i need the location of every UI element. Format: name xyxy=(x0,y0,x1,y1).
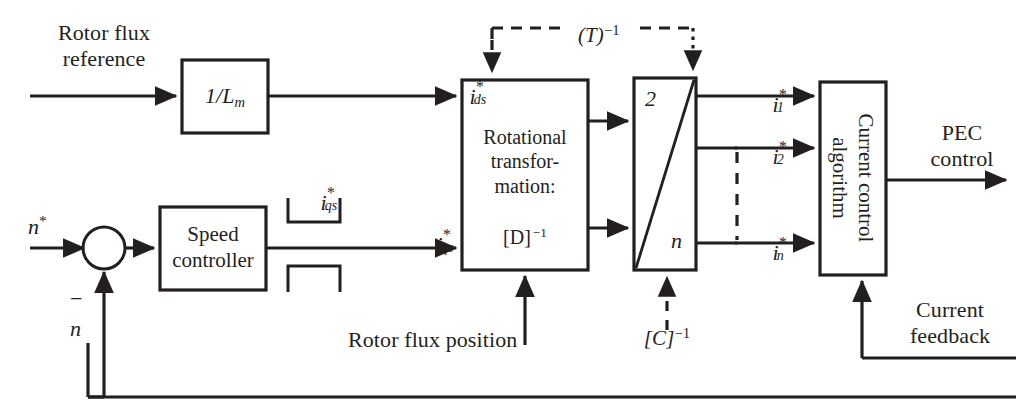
signal-i2-glyph: i*22 xyxy=(772,144,789,170)
t-inverse-exponent: −1 xyxy=(604,22,620,38)
bracket-iqs-lower xyxy=(288,266,340,292)
label-rotor-flux-position: Rotor flux position xyxy=(348,327,517,353)
signal-in-glyph: i*nn xyxy=(772,240,789,266)
label-c-inverse: [C]−1 xyxy=(644,325,690,351)
rotational-matrix-base: [D] xyxy=(503,226,531,248)
current-control-line2: algorithm xyxy=(828,137,852,219)
signal-label-iqs: i*qsqs xyxy=(414,206,462,284)
signal-i2-sub: 2 xyxy=(777,151,784,168)
block-label-rotational-matrix: [D]−1 xyxy=(503,225,547,249)
speed-reference-star: * xyxy=(39,212,47,229)
block-label-inverse-lm: 1/Lm xyxy=(205,83,245,112)
signal-in-sub: n xyxy=(777,247,784,264)
label-current-feedback: Current feedback xyxy=(910,297,990,349)
current-control-line1: Current control xyxy=(854,114,878,243)
speed-reference-base: n xyxy=(28,214,39,239)
t-inverse-base: (T) xyxy=(578,23,604,47)
signal-ids-glyph: i*dsds xyxy=(469,84,495,110)
signal-label-i2: i*22 xyxy=(750,118,790,196)
signal-label-ids: i*dsds xyxy=(447,58,495,136)
inverse-lm-main: 1/L xyxy=(205,83,234,108)
label-summing-minus: − xyxy=(70,286,83,312)
converter-label-2: 2 xyxy=(645,86,656,112)
signal-i1-sub: 1 xyxy=(777,99,784,116)
converter-label-n: n xyxy=(671,228,682,254)
block-label-speed-controller: Speed controller xyxy=(172,222,254,273)
summing-junction xyxy=(83,227,125,269)
inverse-lm-subscript: m xyxy=(234,94,244,110)
signal-ids-sub: ds xyxy=(474,91,487,108)
signal-iqs-annot-sub: qs xyxy=(325,197,338,214)
c-inverse-base: [C] xyxy=(644,326,675,350)
block-label-rotational-transformation: Rotational transfor- mation: xyxy=(483,125,566,198)
rotational-matrix-exponent: −1 xyxy=(533,225,547,240)
c-inverse-exponent: −1 xyxy=(674,325,690,341)
label-speed-feedback: n xyxy=(70,316,81,342)
signal-label-in: i*nn xyxy=(750,214,790,292)
signal-iqs-sub: qs xyxy=(441,239,454,256)
signal-i1-glyph: i*11 xyxy=(772,92,789,118)
block-diagram-canvas: Rotor flux reference 1/Lm Speed controll… xyxy=(0,0,1022,420)
label-pec-control: PEC control xyxy=(930,120,993,172)
label-speed-reference: n* xyxy=(28,212,47,240)
label-t-inverse: (T)−1 xyxy=(578,22,620,48)
signal-iqs-annot-glyph: i*qsqs xyxy=(320,190,346,216)
signal-iqs-glyph: i*qsqs xyxy=(436,232,462,258)
label-rotor-flux-reference: Rotor flux reference xyxy=(58,20,150,72)
block-label-current-control-algorithm: Current controlalgorithm xyxy=(827,83,879,273)
signal-label-iqs-annotation: i*qsqs xyxy=(298,164,346,242)
